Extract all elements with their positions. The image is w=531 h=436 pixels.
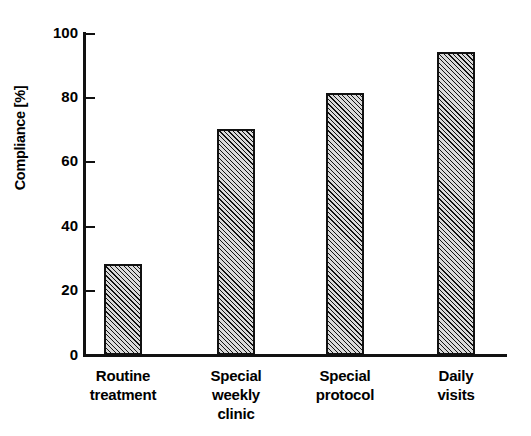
bar-chart-figure: Compliance [%] 100 80 60 40 20 0 Routine… xyxy=(0,0,531,436)
category-label-special-protocol: Special protocol xyxy=(290,366,400,404)
bar-daily-visits xyxy=(437,52,475,355)
bar-routine-treatment xyxy=(104,264,142,355)
category-label-routine-treatment: Routine treatment xyxy=(63,366,183,404)
bar-special-protocol xyxy=(326,93,364,355)
bar-special-weekly-clinic xyxy=(217,129,255,355)
category-label-special-weekly-clinic: Special weekly clinic xyxy=(181,366,291,424)
category-label-daily-visits: Daily visits xyxy=(401,366,511,404)
